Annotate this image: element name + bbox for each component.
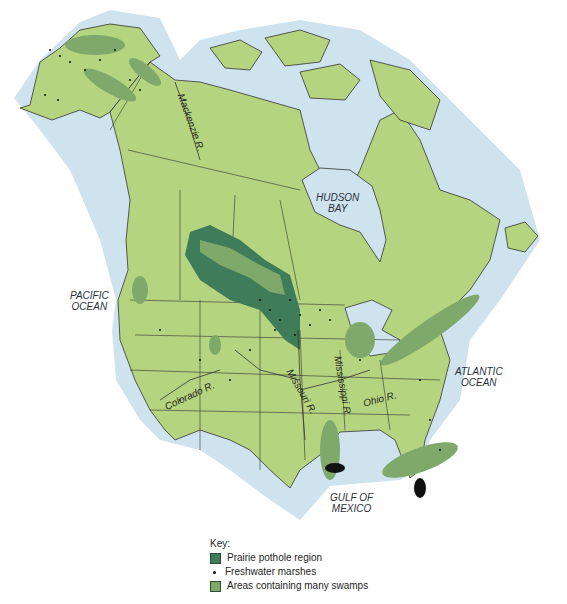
map-key: Key: Prairie pothole region Freshwater m… bbox=[210, 537, 368, 593]
swamp-swatch-icon bbox=[210, 581, 221, 592]
gulf-line1: GULF OF bbox=[330, 492, 373, 503]
key-label: Prairie pothole region bbox=[227, 551, 322, 565]
atlantic-line1: ATLANTIC bbox=[455, 366, 503, 377]
prairie-pothole-swatch-icon bbox=[210, 553, 221, 564]
pacific-line1: PACIFIC bbox=[70, 290, 109, 301]
pacific-line2: OCEAN bbox=[70, 301, 109, 312]
hudson-line1: HUDSON bbox=[316, 192, 359, 203]
atlantic-ocean-label: ATLANTIC OCEAN bbox=[455, 366, 503, 388]
hudson-line2: BAY bbox=[316, 203, 359, 214]
atlantic-line2: OCEAN bbox=[455, 377, 503, 388]
key-item-swamps: Areas containing many swamps bbox=[210, 579, 368, 593]
gulf-line2: MEXICO bbox=[330, 503, 373, 514]
key-label: Areas containing many swamps bbox=[227, 579, 368, 593]
gulf-of-mexico-label: GULF OF MEXICO bbox=[330, 492, 373, 514]
key-label: Freshwater marshes bbox=[225, 565, 316, 579]
key-item-freshwater-marshes: Freshwater marshes bbox=[210, 565, 368, 579]
marsh-dot-icon bbox=[210, 568, 219, 577]
hudson-bay-label: HUDSON BAY bbox=[316, 192, 359, 214]
pacific-ocean-label: PACIFIC OCEAN bbox=[70, 290, 109, 312]
key-title: Key: bbox=[210, 537, 368, 551]
key-item-prairie-pothole: Prairie pothole region bbox=[210, 551, 368, 565]
